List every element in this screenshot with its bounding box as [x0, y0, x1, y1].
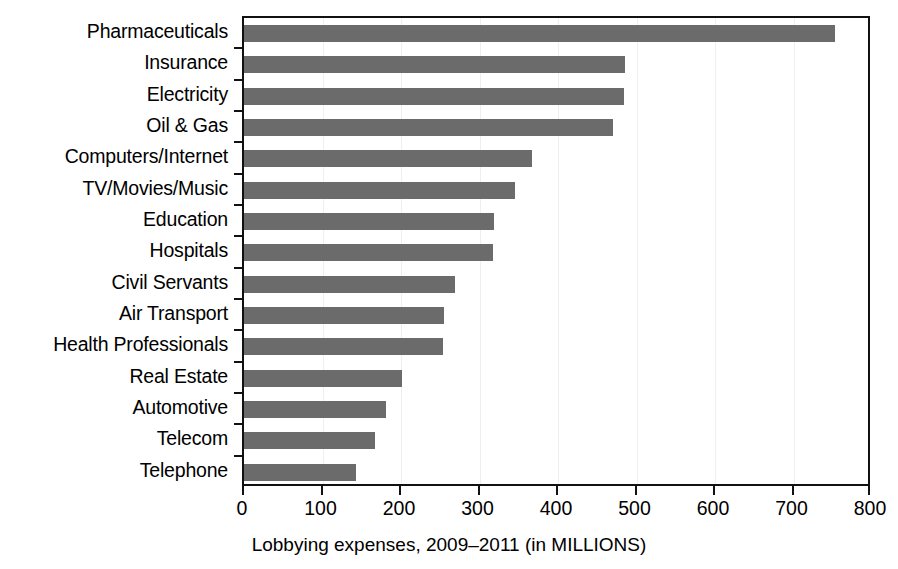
bar-row-health-professionals[interactable] — [244, 331, 868, 362]
bar-automotive[interactable] — [244, 401, 386, 418]
bar-row-air-transport[interactable] — [244, 300, 868, 331]
category-label-hospitals: Hospitals — [0, 235, 236, 266]
value-tick-100 — [321, 486, 323, 495]
category-label-pharmaceuticals: Pharmaceuticals — [0, 16, 236, 47]
bar-row-civil-servants[interactable] — [244, 269, 868, 300]
category-label-real-estate: Real Estate — [0, 361, 236, 392]
category-label-automotive: Automotive — [0, 392, 236, 423]
value-tick-300 — [478, 486, 480, 495]
value-tick-500 — [635, 486, 637, 495]
bar-health-professionals[interactable] — [244, 338, 443, 355]
value-tick-600 — [713, 486, 715, 495]
bar-oil-gas[interactable] — [244, 119, 613, 136]
category-label-telecom: Telecom — [0, 423, 236, 454]
value-tick-label-400: 400 — [540, 496, 573, 520]
value-tick-label-300: 300 — [461, 496, 494, 520]
bar-civil-servants[interactable] — [244, 276, 455, 293]
bar-real-estate[interactable] — [244, 370, 402, 387]
bar-pharmaceuticals[interactable] — [244, 25, 835, 42]
value-tick-0 — [242, 486, 244, 495]
bar-row-oil-gas[interactable] — [244, 112, 868, 143]
value-tick-label-600: 600 — [697, 496, 730, 520]
chart-caption: Lobbying expenses, 2009–2011 (in MILLION… — [0, 534, 898, 556]
category-label-tv-movies-music: TV/Movies/Music — [0, 173, 236, 204]
value-axis-ticks — [242, 486, 870, 496]
bar-hospitals[interactable] — [244, 244, 493, 261]
bar-row-tv-movies-music[interactable] — [244, 175, 868, 206]
category-label-air-transport: Air Transport — [0, 298, 236, 329]
bar-row-computers-internet[interactable] — [244, 143, 868, 174]
bar-row-electricity[interactable] — [244, 81, 868, 112]
bar-row-insurance[interactable] — [244, 49, 868, 80]
value-tick-label-200: 200 — [383, 496, 416, 520]
bar-insurance[interactable] — [244, 56, 625, 73]
bar-row-real-estate[interactable] — [244, 363, 868, 394]
bar-row-telecom[interactable] — [244, 425, 868, 456]
bar-air-transport[interactable] — [244, 307, 444, 324]
value-tick-label-800: 800 — [854, 496, 887, 520]
value-tick-700 — [792, 486, 794, 495]
category-axis-labels: PharmaceuticalsInsuranceElectricityOil &… — [0, 16, 236, 486]
bar-row-pharmaceuticals[interactable] — [244, 18, 868, 49]
category-label-civil-servants: Civil Servants — [0, 267, 236, 298]
bar-telecom[interactable] — [244, 432, 375, 449]
plot-area — [242, 16, 870, 486]
bar-computers-internet[interactable] — [244, 150, 532, 167]
category-label-electricity: Electricity — [0, 79, 236, 110]
bar-row-automotive[interactable] — [244, 394, 868, 425]
bar-row-education[interactable] — [244, 206, 868, 237]
category-label-computers-internet: Computers/Internet — [0, 141, 236, 172]
category-label-health-professionals: Health Professionals — [0, 329, 236, 360]
bar-electricity[interactable] — [244, 88, 624, 105]
category-label-oil-gas: Oil & Gas — [0, 110, 236, 141]
bar-education[interactable] — [244, 213, 494, 230]
bar-tv-movies-music[interactable] — [244, 182, 515, 199]
bar-row-hospitals[interactable] — [244, 237, 868, 268]
value-tick-label-100: 100 — [304, 496, 337, 520]
value-tick-label-0: 0 — [237, 496, 248, 520]
value-tick-label-500: 500 — [618, 496, 651, 520]
bar-series — [244, 18, 868, 484]
category-label-telephone: Telephone — [0, 455, 236, 486]
value-tick-200 — [399, 486, 401, 495]
value-tick-label-700: 700 — [775, 496, 808, 520]
bar-telephone[interactable] — [244, 464, 356, 481]
category-label-education: Education — [0, 204, 236, 235]
bar-chart-figure: PharmaceuticalsInsuranceElectricityOil &… — [0, 0, 898, 569]
bar-row-telephone[interactable] — [244, 457, 868, 486]
category-label-insurance: Insurance — [0, 47, 236, 78]
value-tick-400 — [556, 486, 558, 495]
value-tick-800 — [868, 486, 870, 495]
value-axis-tick-labels: 0100200300400500600700800 — [242, 496, 870, 524]
